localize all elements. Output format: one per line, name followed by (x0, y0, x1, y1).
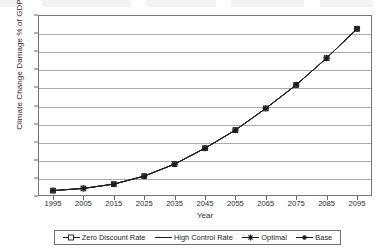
legend-entry-optimal[interactable]: Optimal (242, 233, 286, 242)
x-tick-label: 2095 (339, 199, 375, 208)
series-zero-discount-rate (51, 26, 360, 193)
legend-entry-high-control-rate[interactable]: High Control Rate (155, 233, 233, 242)
series-line (53, 29, 357, 191)
chart-legend: Zero Discount RateHigh Control RateOptim… (54, 230, 341, 245)
x-tick-mark (327, 196, 328, 200)
square-line-marker (63, 233, 80, 242)
series-optimal (50, 26, 360, 194)
data-point-marker (264, 107, 267, 110)
data-point-marker (234, 129, 237, 132)
legend-label: Zero Discount Rate (82, 233, 146, 242)
x-tick-mark (357, 196, 358, 200)
x-tick-mark (205, 196, 206, 200)
data-point-marker (204, 147, 207, 150)
legend-label: Optimal (261, 233, 286, 242)
plain-line-marker (155, 233, 172, 242)
series-line (53, 29, 357, 191)
legend-entry-base[interactable]: Base (296, 233, 332, 242)
x-tick-mark (266, 196, 267, 200)
data-point-marker (356, 27, 359, 30)
data-point-marker (173, 163, 176, 166)
data-point-marker (295, 83, 298, 86)
data-point-marker (52, 189, 55, 192)
x-tick-mark (235, 196, 236, 200)
legend-label: High Control Rate (174, 233, 233, 242)
x-tick-mark (114, 196, 115, 200)
data-point-marker (143, 175, 146, 178)
legend-entry-zero-discount-rate[interactable]: Zero Discount Rate (63, 233, 146, 242)
data-point-marker (82, 187, 85, 190)
circle-line-marker (296, 233, 313, 242)
series-line (53, 29, 357, 191)
asterisk-line-marker (242, 233, 259, 242)
data-point-marker (112, 183, 115, 186)
legend-label: Base (315, 233, 332, 242)
x-tick-mark (175, 196, 176, 200)
series-high-control-rate (53, 29, 357, 191)
series-line (53, 29, 357, 191)
data-point-marker (325, 57, 328, 60)
chart-container: Climate Change Damage % of GDP 5.04.54.0… (0, 0, 385, 250)
series-base (52, 27, 359, 192)
x-axis-title: Year (38, 211, 372, 220)
x-tick-mark (53, 196, 54, 200)
y-axis-title: Climate Change Damage % of GDP (15, 0, 24, 150)
scan-artifact-band (0, 0, 385, 7)
x-tick-mark (144, 196, 145, 200)
x-tick-mark (83, 196, 84, 200)
series-layer (38, 15, 372, 196)
x-tick-mark (296, 196, 297, 200)
